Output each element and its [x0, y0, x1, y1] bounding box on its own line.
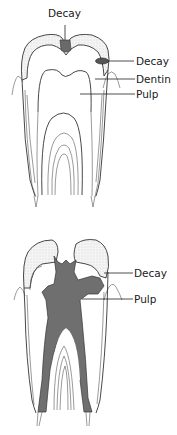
label-dentin: Dentin	[136, 73, 171, 85]
gum-left	[12, 76, 23, 95]
tooth-decay-diagram: Decay Decay Dentin Pulp Decay Pulp	[0, 0, 177, 435]
label-pulp: Pulp	[136, 88, 159, 100]
pulp-chamber	[38, 70, 91, 112]
tooth-advanced-decay: Decay Pulp	[14, 240, 167, 427]
label-pulp-advanced: Pulp	[134, 293, 157, 305]
tooth-outline-left	[22, 80, 35, 196]
decay-proximal	[96, 58, 109, 64]
label-decay-advanced: Decay	[134, 267, 167, 279]
label-decay-side: Decay	[136, 55, 169, 67]
label-decay-top: Decay	[48, 7, 81, 19]
decay-occlusal	[60, 40, 71, 52]
tooth-early-decay: Decay Decay Dentin Pulp	[12, 7, 171, 207]
